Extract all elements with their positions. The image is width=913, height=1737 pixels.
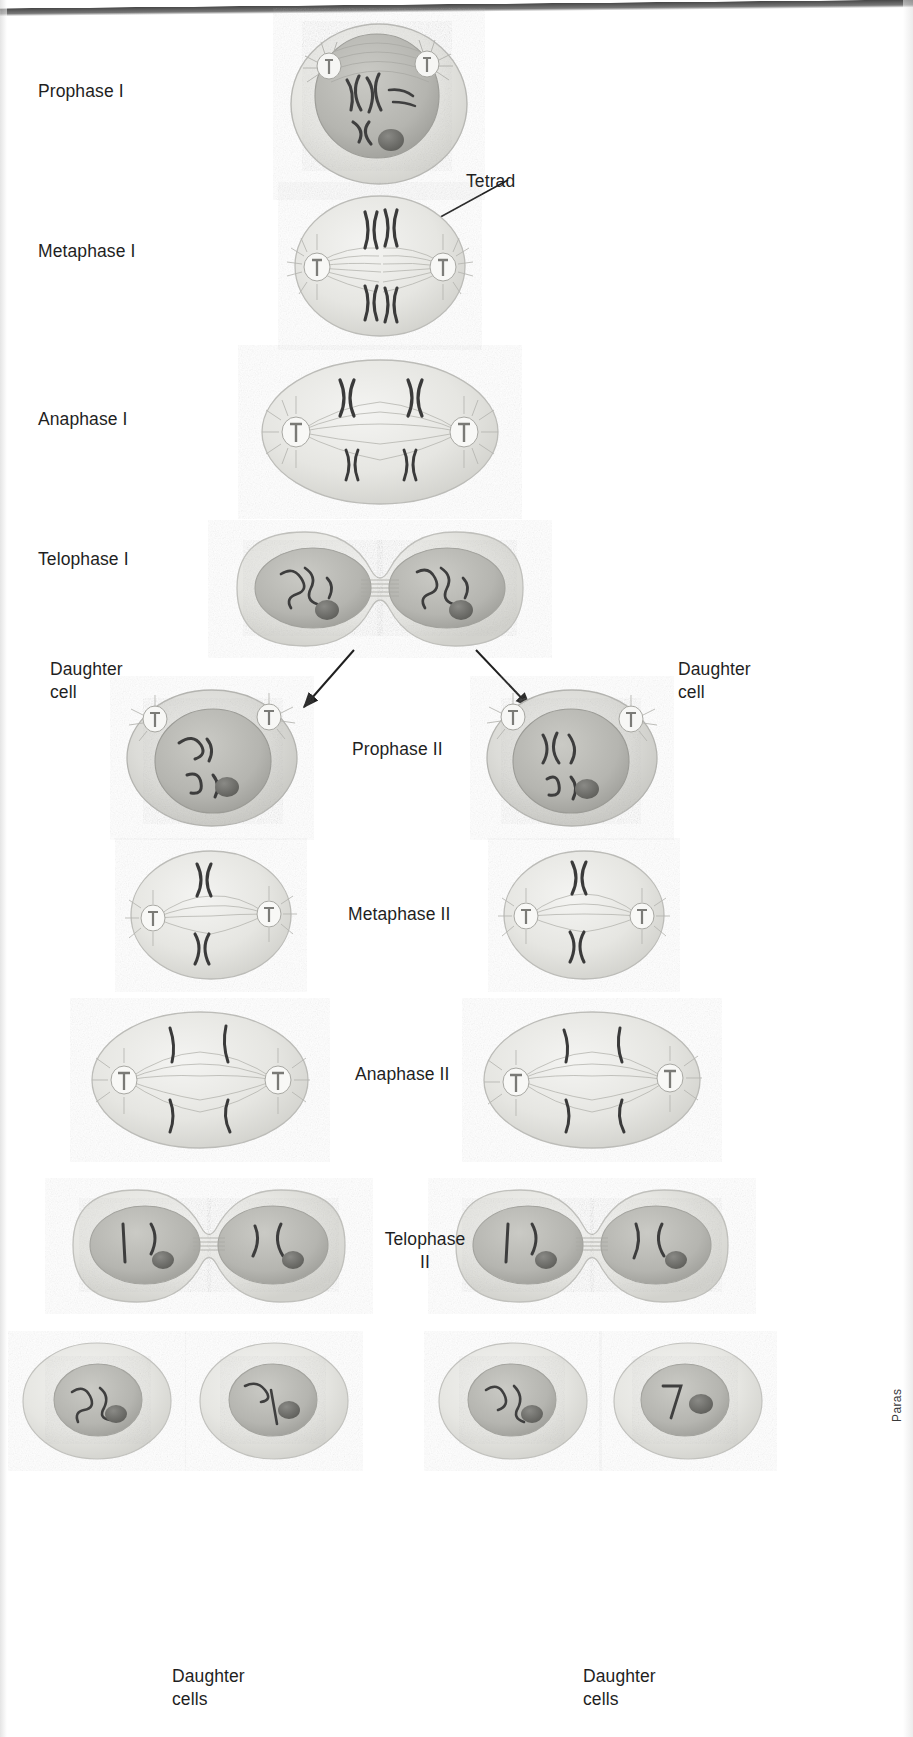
- stage-label-metaphase-1: Metaphase I: [38, 240, 135, 263]
- cell-anaphase-1: [258, 354, 502, 510]
- nucleolus: [315, 600, 339, 620]
- nucleolus: [449, 600, 473, 620]
- stage-label-prophase-2: Prophase II: [352, 738, 443, 761]
- cell-daughter-3: [434, 1338, 592, 1464]
- scan-edge-right: [903, 0, 913, 1737]
- cell-metaphase-2-left: [125, 846, 297, 984]
- nucleolus: [689, 1394, 713, 1414]
- daughter-cell-label-left: Daughter cell: [50, 658, 123, 704]
- stage-label-telophase-2: Telophase II: [370, 1228, 480, 1274]
- nucleolus: [215, 777, 239, 797]
- cell-anaphase-2-right: [480, 1008, 704, 1152]
- cell-anaphase-2-left: [88, 1008, 312, 1152]
- cell-daughter-2: [195, 1338, 353, 1464]
- nucleolus: [378, 129, 404, 151]
- nucleolus: [105, 1405, 127, 1423]
- cell-daughter-4: [609, 1338, 767, 1464]
- nucleolus: [575, 779, 599, 799]
- nucleolus: [152, 1251, 174, 1269]
- stage-label-metaphase-2: Metaphase II: [348, 903, 450, 926]
- cell-prophase-2-right: [481, 683, 663, 833]
- daughter-cell-label-right: Daughter cell: [678, 658, 751, 704]
- cell-telophase-2-left: [67, 1180, 351, 1312]
- cell-daughter-1: [18, 1338, 176, 1464]
- cell-metaphase-2-right: [498, 846, 670, 984]
- figure-page: Tetrad: [0, 0, 913, 1737]
- cell-metaphase-1: [285, 190, 475, 342]
- daughter-cells-label-left: Daughter cells: [172, 1665, 245, 1711]
- cell-telophase-1: [231, 522, 529, 656]
- stage-label-anaphase-1: Anaphase I: [38, 408, 128, 431]
- nucleolus: [521, 1405, 543, 1423]
- credit-text: Paras: [890, 1389, 904, 1422]
- nucleolus: [278, 1401, 300, 1419]
- cell-prophase-1: [281, 18, 477, 190]
- nucleolus: [282, 1251, 304, 1269]
- nucleolus: [535, 1251, 557, 1269]
- nucleolus: [665, 1251, 687, 1269]
- stage-label-anaphase-2: Anaphase II: [355, 1063, 450, 1086]
- stage-label-telophase-1: Telophase I: [38, 548, 129, 571]
- stage-label-prophase-1: Prophase I: [38, 80, 124, 103]
- scan-edge-left: [0, 0, 7, 1737]
- daughter-cells-label-right: Daughter cells: [583, 1665, 656, 1711]
- cell-telophase-2-right: [450, 1180, 734, 1312]
- cell-prophase-2-left: [121, 683, 303, 833]
